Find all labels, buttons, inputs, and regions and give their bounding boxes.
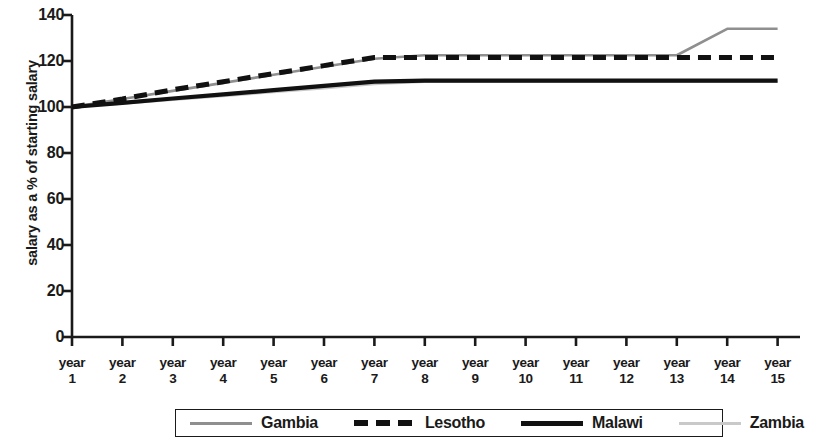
x-tick-year-8: year8 [401, 355, 449, 387]
x-tick-year-13: year13 [653, 355, 701, 387]
chart-legend: Gambia Lesotho Malawi Zambia [175, 409, 723, 437]
legend-label-gambia: Gambia [261, 414, 318, 432]
x-tick-year-10: year10 [502, 355, 550, 387]
series-line-malawi [72, 81, 778, 107]
legend-label-lesotho: Lesotho [425, 414, 485, 432]
x-tick-year-6: year6 [300, 355, 348, 387]
legend-label-malawi: Malawi [592, 414, 643, 432]
series-line-gambia [72, 29, 778, 107]
legend-item-gambia[interactable]: Gambia [176, 410, 318, 436]
salary-progression-chart: salary as a % of starting salary 0204060… [0, 0, 824, 441]
legend-swatch-malawi-icon [521, 421, 583, 426]
legend-label-zambia: Zambia [750, 414, 804, 432]
legend-swatch-lesotho-icon [354, 420, 416, 426]
x-tick-year-4: year4 [199, 355, 247, 387]
x-tick-year-7: year7 [350, 355, 398, 387]
legend-item-malawi[interactable]: Malawi [485, 410, 643, 436]
x-tick-year-9: year9 [451, 355, 499, 387]
x-tick-year-12: year12 [602, 355, 650, 387]
legend-item-zambia[interactable]: Zambia [643, 410, 804, 436]
x-tick-year-2: year2 [98, 355, 146, 387]
x-tick-year-15: year15 [754, 355, 802, 387]
legend-item-lesotho[interactable]: Lesotho [318, 410, 485, 436]
x-tick-year-14: year14 [703, 355, 751, 387]
x-tick-year-11: year11 [552, 355, 600, 387]
x-tick-year-1: year1 [48, 355, 96, 387]
legend-swatch-gambia-icon [190, 422, 252, 425]
x-tick-year-3: year3 [149, 355, 197, 387]
x-tick-year-5: year5 [250, 355, 298, 387]
series-line-zambia [72, 82, 778, 107]
legend-swatch-zambia-icon [679, 422, 741, 425]
